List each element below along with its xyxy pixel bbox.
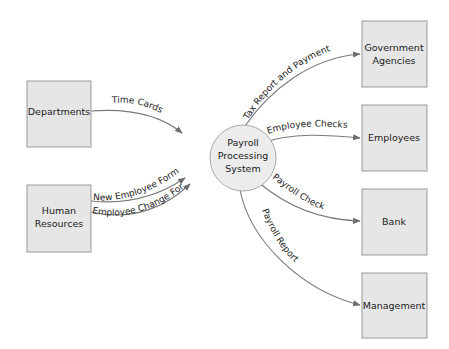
entity-label-departments: Departments xyxy=(28,106,90,117)
entity-label-agencies: Agencies xyxy=(372,55,415,66)
entity-departments: Departments xyxy=(27,81,91,147)
flow-employee-checks-arrow xyxy=(263,135,360,143)
process-payroll-processing-system: Payroll Processing System xyxy=(210,125,276,191)
entity-employees: Employees xyxy=(362,105,427,171)
entity-label-employees: Employees xyxy=(368,132,420,143)
flow-label-time-cards: Time Cards xyxy=(111,95,165,116)
process-label-line2: Processing xyxy=(218,150,269,161)
data-flow-diagram: Time Cards New Employee Form Employee Ch… xyxy=(0,0,449,349)
entity-human-resources: Human Resources xyxy=(27,185,91,252)
entity-management: Management xyxy=(362,273,427,338)
entity-label-management: Management xyxy=(363,300,426,311)
entity-label-bank: Bank xyxy=(382,216,406,227)
process-label-line3: System xyxy=(225,163,260,174)
flow-label-payroll-report: Payroll Report xyxy=(260,207,301,264)
entity-label-human: Human xyxy=(42,205,76,216)
flow-label-payroll-check: Payroll Check xyxy=(271,172,327,212)
flow-label-employee-checks: Employee Checks xyxy=(265,119,348,136)
entity-label-resources: Resources xyxy=(35,218,84,229)
entity-bank: Bank xyxy=(362,189,427,255)
entity-government-agencies: Government Agencies xyxy=(362,21,427,87)
entity-label-government: Government xyxy=(364,42,424,53)
flow-time-cards-arrow xyxy=(91,110,182,133)
process-label-line1: Payroll xyxy=(227,137,259,148)
flow-payroll-report-arrow xyxy=(240,190,360,305)
